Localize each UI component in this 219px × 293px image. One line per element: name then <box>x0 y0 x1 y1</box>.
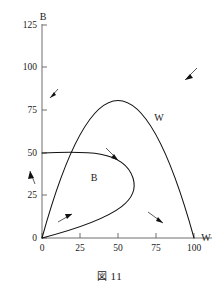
y-tick-label-75: 75 <box>28 105 38 115</box>
y-tick-label-125: 125 <box>23 20 38 30</box>
x-tick-label-50: 50 <box>113 243 123 253</box>
y-tick-labels: 0 25 50 75 100 125 <box>23 20 38 243</box>
x-axis-end-label: W <box>201 232 211 243</box>
b-nullcline-curve <box>42 152 134 238</box>
w-nullcline-curve <box>42 101 194 239</box>
phase-plane-plot: 0 25 50 75 100 125 0 25 50 75 100 B W <box>0 0 219 265</box>
y-tick-label-100: 100 <box>23 62 38 72</box>
caption-number: 11 <box>111 270 123 282</box>
arrow-mid-left <box>28 171 35 184</box>
y-tick-label-0: 0 <box>32 233 37 243</box>
caption-glyph: 図 <box>97 271 108 282</box>
x-tick-label-75: 75 <box>151 243 161 253</box>
y-tick-label-50: 50 <box>28 148 38 158</box>
x-tick-marks <box>42 233 194 238</box>
y-tick-label-25: 25 <box>28 190 38 200</box>
w-curve-label: W <box>154 112 164 123</box>
x-tick-label-25: 25 <box>75 243 85 253</box>
arrow-lower-left <box>58 214 72 222</box>
y-axis-label: B <box>40 11 47 22</box>
arrow-mid-center <box>106 148 118 160</box>
arrow-upper-right <box>185 68 197 80</box>
x-tick-label-0: 0 <box>40 243 45 253</box>
axis-group <box>42 24 212 238</box>
y-tick-marks <box>42 25 47 238</box>
b-curve-label: B <box>91 172 98 183</box>
figure-caption: 図 11 <box>0 262 219 290</box>
x-tick-labels: 0 25 50 75 100 <box>40 243 202 253</box>
arrow-upper-left <box>50 89 58 98</box>
x-tick-label-100: 100 <box>187 243 202 253</box>
figure-container: 0 25 50 75 100 125 0 25 50 75 100 B W <box>0 0 219 293</box>
arrow-lower-right <box>148 212 163 223</box>
